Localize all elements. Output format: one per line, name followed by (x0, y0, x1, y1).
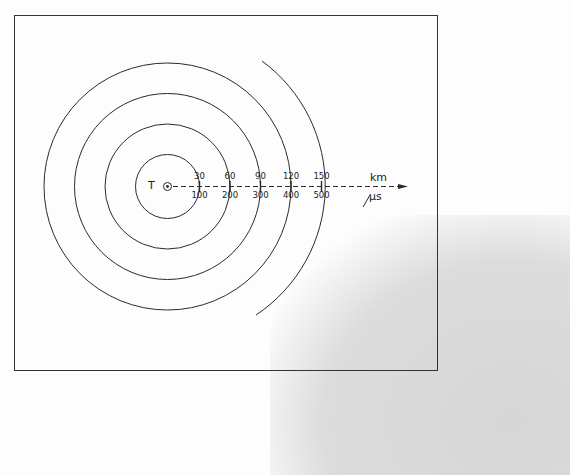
unit-us-label: µs (369, 191, 382, 202)
unit-km-label: km (370, 172, 387, 183)
tick-label-us-3: 300 (252, 191, 268, 200)
tick-label-km-1: 30 (194, 172, 205, 181)
tick-label-km-2: 60 (225, 172, 236, 181)
tick-label-km-5: 150 (313, 172, 329, 181)
tick-label-us-2: 200 (222, 191, 238, 200)
tick-label-us-1: 100 (191, 191, 207, 200)
tick-label-km-4: 120 (283, 172, 299, 181)
target-dot (166, 185, 169, 188)
origin-label: T (148, 180, 155, 191)
arrow-head-icon (398, 184, 408, 189)
tick-label-us-4: 400 (283, 191, 299, 200)
tick-label-km-3: 90 (255, 172, 266, 181)
tick-label-us-5: 500 (313, 191, 329, 200)
